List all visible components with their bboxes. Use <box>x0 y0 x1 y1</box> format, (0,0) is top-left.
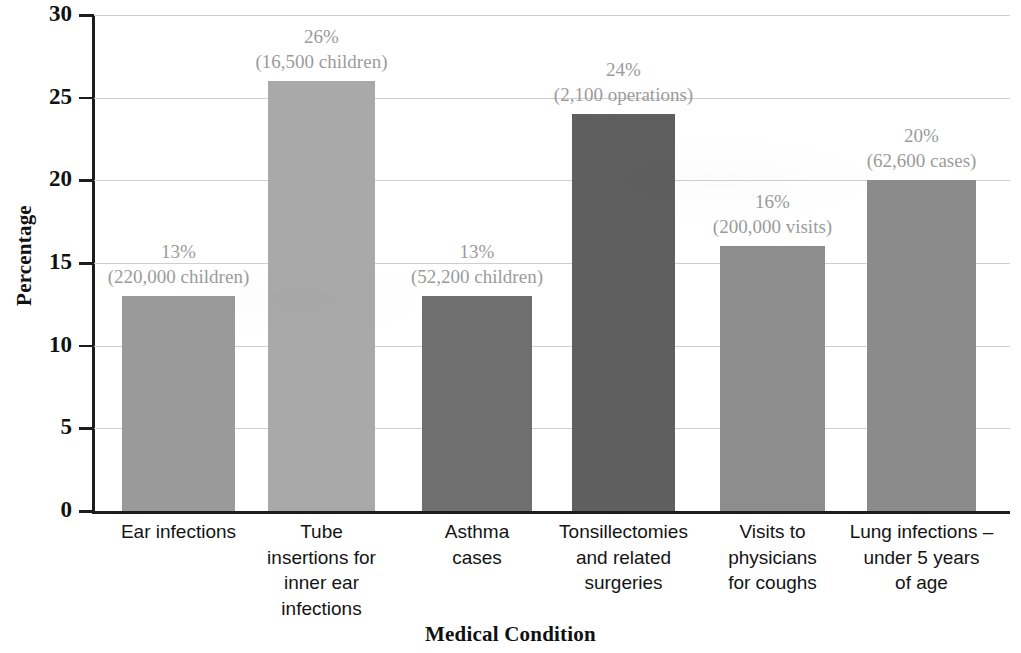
category-label-line: under 5 years <box>827 545 1017 571</box>
bar-count-label: (62,600 cases) <box>792 148 1021 173</box>
y-axis-tick-label: 20 <box>14 166 72 192</box>
y-axis-tick-label: 30 <box>14 1 72 27</box>
bar-count-label: (2,100 operations) <box>494 82 754 107</box>
y-axis-tick <box>79 510 94 513</box>
bar <box>122 296 235 511</box>
bar-value-label: 20%(62,600 cases) <box>792 123 1021 173</box>
y-axis-tick-label: 25 <box>14 84 72 110</box>
y-axis-tick <box>79 14 94 17</box>
bar <box>572 114 675 511</box>
y-axis-tick <box>79 427 94 430</box>
x-axis-title: Medical Condition <box>0 622 1021 647</box>
bar-value-label: 24%(2,100 operations) <box>494 57 754 107</box>
bar-value-label: 13%(52,200 children) <box>347 239 607 289</box>
bar-count-label: (52,200 children) <box>347 264 607 289</box>
gridline <box>92 15 1010 16</box>
x-axis-category-label: Lung infections –under 5 yearsof age <box>827 519 1017 596</box>
bar-percent-label: 24% <box>494 57 754 82</box>
y-axis-tick <box>79 345 94 348</box>
bar <box>720 246 825 511</box>
bar-count-label: (220,000 children) <box>49 264 309 289</box>
y-axis-tick-label: 5 <box>14 414 72 440</box>
bar-percent-label: 26% <box>192 24 452 49</box>
bar-count-label: (200,000 visits) <box>643 214 903 239</box>
bar-value-label: 26%(16,500 children) <box>192 24 452 74</box>
bar-chart: Percentage 051015202530 13%(220,000 chil… <box>0 0 1021 653</box>
y-axis-tick-label: 0 <box>14 497 72 523</box>
category-label-line: infections <box>227 596 417 622</box>
bar-percent-label: 13% <box>347 239 607 264</box>
category-label-line: of age <box>827 570 1017 596</box>
bar-value-label: 13%(220,000 children) <box>49 239 309 289</box>
y-axis-tick <box>79 179 94 182</box>
category-label-line: Lung infections – <box>827 519 1017 545</box>
y-axis-tick <box>79 97 94 100</box>
x-axis-line <box>92 511 1010 514</box>
bar-percent-label: 16% <box>643 189 903 214</box>
y-axis-tick-label: 10 <box>14 332 72 358</box>
bar <box>422 296 532 511</box>
bar-percent-label: 13% <box>49 239 309 264</box>
bar <box>268 81 375 511</box>
bar-value-label: 16%(200,000 visits) <box>643 189 903 239</box>
bar-count-label: (16,500 children) <box>192 49 452 74</box>
bar-percent-label: 20% <box>792 123 1021 148</box>
category-label-line: inner ear <box>227 570 417 596</box>
